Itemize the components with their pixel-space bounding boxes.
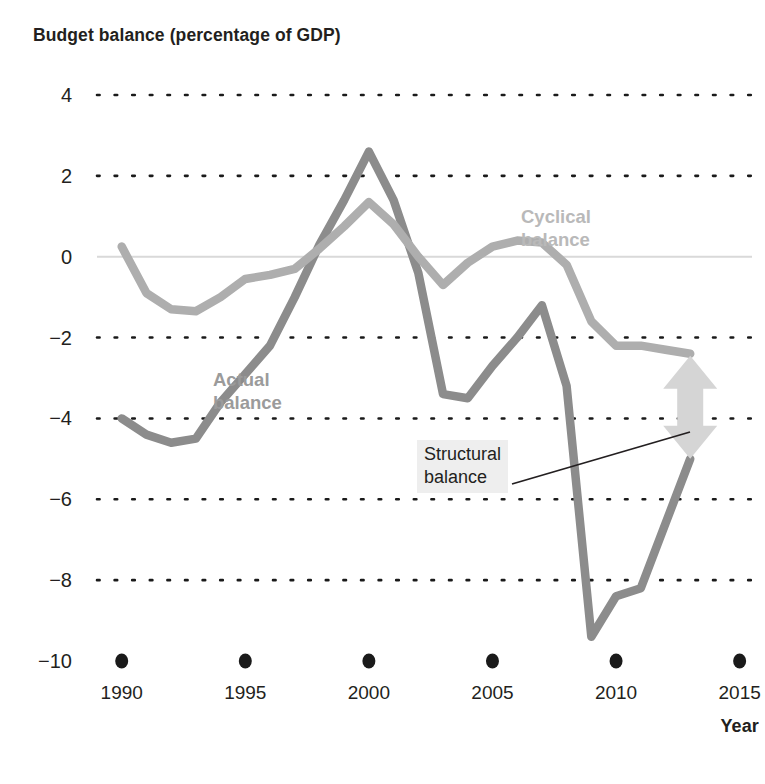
x-axis-tick-marker: [115, 654, 128, 669]
annotation-structural-balance-line2: balance: [424, 466, 501, 489]
x-axis-tick-label: 1990: [77, 683, 167, 702]
x-axis-tick-label: 2005: [447, 683, 537, 702]
annotation-leader-line: [512, 432, 690, 484]
x-axis-label: Year: [695, 717, 765, 735]
y-axis-tick-label: 2: [10, 166, 72, 186]
y-axis-tick-label: −4: [10, 408, 72, 428]
y-axis-tick-label: −10: [10, 651, 72, 671]
x-axis-tick-label: 2000: [324, 683, 414, 702]
y-axis-tick-label: 4: [10, 85, 72, 105]
annotation-actual-balance-line1: Actual: [213, 368, 282, 391]
annotation-cyclical-balance-line1: Cyclical: [521, 205, 591, 228]
chart-plot-area: [0, 0, 765, 784]
y-axis-tick-label: −8: [10, 570, 72, 590]
x-axis-tick-marker: [486, 654, 499, 669]
chart-title: Budget balance (percentage of GDP): [33, 25, 341, 46]
annotation-actual-balance: Actual balance: [213, 368, 282, 414]
y-axis-tick-label: −2: [10, 328, 72, 348]
annotation-structural-balance-line1: Structural: [424, 443, 501, 466]
chart-figure: Budget balance (percentage of GDP) 4 2 0…: [0, 0, 765, 784]
structural-balance-arrow: [663, 356, 717, 459]
annotation-structural-balance: Structural balance: [417, 440, 508, 493]
x-axis-tick-marker: [362, 654, 375, 669]
x-axis-tick-marker: [239, 654, 252, 669]
x-axis-tick-label: 2010: [571, 683, 661, 702]
x-axis-tick-label: 1995: [200, 683, 290, 702]
annotation-cyclical-balance-line2: balance: [521, 228, 591, 251]
x-axis-tick-marker: [610, 654, 623, 669]
annotation-actual-balance-line2: balance: [213, 391, 282, 414]
y-axis-tick-label: 0: [10, 247, 72, 267]
x-axis-tick-marker: [733, 654, 746, 669]
y-axis-tick-label: −6: [10, 489, 72, 509]
series-line-actual-balance: [122, 152, 690, 637]
annotation-cyclical-balance: Cyclical balance: [521, 205, 591, 251]
x-axis-tick-label: 2015: [695, 683, 765, 702]
